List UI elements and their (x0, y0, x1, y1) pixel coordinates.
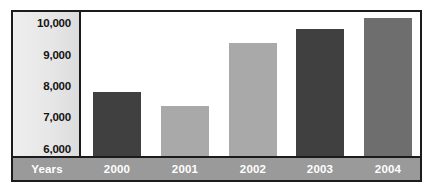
y-axis-tick-10000: 10,000 (13, 17, 71, 29)
bar-chart: 10,000 9,000 8,000 7,000 6,000 Years 200… (11, 10, 422, 182)
y-axis-tick-8000: 8,000 (13, 80, 71, 92)
y-axis-tick-7000: 7,000 (13, 111, 71, 123)
x-axis-label-2000: 2000 (83, 158, 151, 180)
plot-area: 10,000 9,000 8,000 7,000 6,000 (13, 12, 420, 160)
bar-2003 (296, 29, 344, 160)
x-axis-label-2004: 2004 (354, 158, 422, 180)
bars-canvas (83, 12, 420, 160)
x-axis-label-2003: 2003 (286, 158, 354, 180)
x-axis-label-2002: 2002 (219, 158, 287, 180)
x-axis-label-2001: 2001 (151, 158, 219, 180)
bar-2002 (229, 43, 277, 160)
y-axis-panel: 10,000 9,000 8,000 7,000 6,000 (13, 12, 81, 160)
x-axis-band: Years 20002001200220032004 (13, 156, 420, 180)
bar-2001 (161, 106, 209, 160)
y-axis-tick-9000: 9,000 (13, 49, 71, 61)
y-axis-tick-6000: 6,000 (13, 143, 71, 155)
bar-2004 (364, 18, 412, 160)
x-axis-title: Years (13, 158, 81, 180)
bar-2000 (93, 92, 141, 160)
